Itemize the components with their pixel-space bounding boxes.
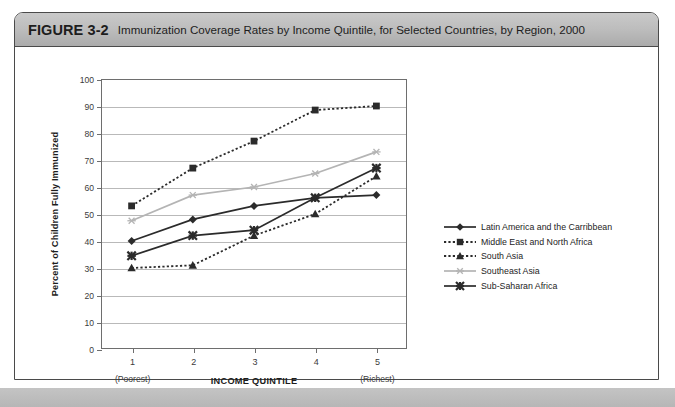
data-point	[189, 192, 197, 198]
legend-marker-square-icon	[443, 235, 477, 249]
legend-item-2: South Asia	[443, 249, 648, 264]
y-axis-tick-label: 50	[84, 210, 94, 220]
series-1	[128, 103, 380, 210]
data-point	[128, 237, 136, 245]
data-point	[311, 210, 319, 218]
legend-label: Southeast Asia	[481, 266, 540, 276]
series-line	[132, 106, 377, 206]
legend-item-3: Southeast Asia	[443, 264, 648, 279]
y-axis-tick-label: 100	[80, 75, 94, 85]
data-point	[250, 184, 258, 190]
data-point	[311, 194, 319, 202]
data-point	[189, 231, 197, 239]
y-axis-tick-label: 60	[84, 183, 94, 193]
y-axis-tick-label: 40	[84, 237, 94, 247]
legend-label: Latin America and the Carribbean	[481, 222, 612, 232]
legend-marker-diamond-icon	[443, 220, 477, 234]
legend-marker-xstar-icon	[443, 279, 477, 293]
data-point	[127, 252, 135, 260]
page-bottom-band	[0, 388, 675, 407]
data-point	[250, 226, 258, 234]
data-point	[127, 264, 135, 272]
data-point	[372, 164, 380, 172]
data-point	[189, 215, 197, 223]
legend-item-4: Sub-Saharan Africa	[443, 278, 648, 293]
y-axis-title: Percent of Children Fully Immunized	[48, 79, 62, 349]
data-point	[251, 138, 258, 145]
legend-marker-triangle-icon	[443, 249, 477, 263]
series-3	[127, 149, 380, 224]
data-point	[312, 107, 319, 114]
y-axis-tick	[97, 350, 102, 351]
data-point	[311, 171, 319, 177]
figure-card: FIGURE 3-2 Immunization Coverage Rates b…	[14, 12, 659, 380]
y-axis-tick-label: 20	[84, 291, 94, 301]
chart-legend: Latin America and the CarribbeanMiddle E…	[443, 220, 648, 293]
immunization-line-chart: Percent of Children Fully Immunized 0102…	[15, 48, 660, 381]
data-point	[372, 149, 380, 155]
legend-item-0: Latin America and the Carribbean	[443, 220, 648, 235]
y-axis-title-text: Percent of Children Fully Immunized	[50, 132, 60, 297]
x-axis-tick-label: 2	[191, 357, 196, 367]
figure-number: FIGURE 3-2	[28, 22, 109, 38]
legend-label: Sub-Saharan Africa	[481, 281, 557, 291]
figure-header: FIGURE 3-2 Immunization Coverage Rates b…	[15, 13, 658, 47]
legend-label: Middle East and North Africa	[481, 237, 592, 247]
y-axis-tick-label: 80	[84, 129, 94, 139]
legend-marker-star-icon	[443, 264, 477, 278]
data-point	[372, 172, 380, 180]
legend-label: South Asia	[481, 251, 523, 261]
data-point	[189, 165, 196, 172]
figure-caption: Immunization Coverage Rates by Income Qu…	[118, 23, 585, 36]
series-line	[132, 168, 377, 256]
x-axis-title: INCOME QUINTILE	[101, 376, 407, 386]
data-point	[127, 218, 135, 224]
data-point	[372, 191, 380, 199]
data-point	[250, 202, 258, 210]
figure-body: Percent of Children Fully Immunized 0102…	[15, 48, 658, 379]
series-line	[132, 176, 377, 268]
y-axis-tick-label: 70	[84, 156, 94, 166]
series-4	[127, 164, 380, 260]
y-axis-tick-label: 10	[84, 318, 94, 328]
legend-item-1: Middle East and North Africa	[443, 235, 648, 250]
x-axis-tick-label: 5	[375, 357, 380, 367]
y-axis-tick-label: 30	[84, 264, 94, 274]
data-point	[373, 103, 380, 110]
x-axis-tick-label: 4	[314, 357, 319, 367]
y-axis-tick-label: 90	[84, 102, 94, 112]
y-axis-tick-label: 0	[89, 345, 94, 355]
x-axis-tick-label: 1	[130, 357, 135, 367]
data-point	[128, 203, 135, 210]
series-plot	[101, 79, 407, 349]
x-axis-tick-label: 3	[252, 357, 257, 367]
